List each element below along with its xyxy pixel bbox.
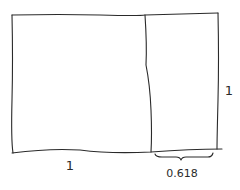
- outer-rectangle-bottom-edge: [12, 149, 222, 153]
- golden-rectangle-diagram: 1 1 0.618: [0, 0, 240, 190]
- width-brace: [155, 153, 213, 160]
- outer-rectangle-right-edge: [217, 13, 219, 149]
- outer-rectangle-top-edge: [12, 13, 218, 16]
- outer-rectangle-left-edge: [12, 15, 13, 153]
- right-height-label: 1: [225, 83, 233, 98]
- square-divider-line: [145, 15, 152, 152]
- brace-width-label: 0.618: [166, 167, 198, 180]
- bottom-width-label: 1: [66, 158, 74, 173]
